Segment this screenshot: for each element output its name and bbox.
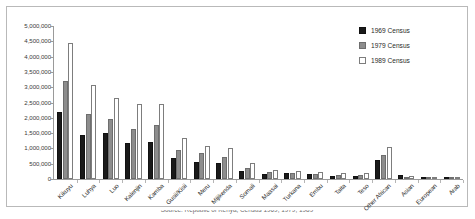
x-tick-mark <box>418 180 419 183</box>
bar <box>194 162 199 179</box>
bar <box>137 104 142 179</box>
bar-group <box>284 26 300 179</box>
bar <box>63 81 68 179</box>
bar-group <box>103 26 119 179</box>
x-axis-category-label: Mijikenda <box>210 182 233 205</box>
y-axis-labels: 5,000,0004,500,0004,000,0003,500,0003,00… <box>7 7 51 219</box>
bar <box>262 174 267 179</box>
y-tick-label: 2,500,000 <box>24 99 51 106</box>
bar-group <box>57 26 73 179</box>
bar <box>86 114 91 179</box>
bar <box>387 147 392 179</box>
bar <box>267 172 272 179</box>
y-tick-label: 1,000,000 <box>24 144 51 151</box>
bar <box>398 175 403 179</box>
y-tick-label: 2,000,000 <box>24 114 51 121</box>
bar <box>182 138 187 179</box>
x-axis-category-label: European <box>414 182 438 206</box>
x-tick-mark <box>236 180 237 183</box>
bar <box>375 160 380 179</box>
x-axis-category-label: Asian <box>399 182 415 198</box>
legend-label: 1969 Census <box>371 27 410 34</box>
legend-item: 1969 Census <box>359 23 410 38</box>
y-tick-label: 500,000 <box>29 160 51 167</box>
y-tick-label: 3,500,000 <box>24 68 51 75</box>
bar <box>313 174 318 179</box>
x-tick-mark <box>395 180 396 183</box>
y-tick-label: 4,000,000 <box>24 53 51 60</box>
legend-item: 1979 Census <box>359 38 410 53</box>
bar <box>353 176 358 179</box>
bar-group <box>148 26 164 179</box>
x-axis-category-label: Luhya <box>80 182 97 199</box>
legend-label: 1979 Census <box>371 42 410 49</box>
x-axis-category-label: Teso <box>356 182 370 196</box>
bar <box>284 173 289 179</box>
x-tick-mark <box>281 180 282 183</box>
bar <box>250 163 255 179</box>
bar-group <box>80 26 96 179</box>
bar <box>103 133 108 180</box>
legend: 1969 Census1979 Census1989 Census <box>359 23 410 68</box>
bar <box>148 142 153 179</box>
x-axis-category-label: Kamba <box>147 182 166 201</box>
caption-clip: Source: Republic of Kenya, Census 1969, … <box>6 210 468 219</box>
bar <box>404 177 409 179</box>
bar <box>125 143 130 179</box>
bar <box>273 170 278 179</box>
x-axis-category-label: Meru <box>196 182 211 197</box>
x-axis-category-label: Maasai <box>260 182 279 201</box>
x-axis-category-label: Turkana <box>281 182 302 203</box>
bar <box>222 157 227 179</box>
bar-group <box>330 26 346 179</box>
x-tick-mark <box>259 180 260 183</box>
legend-swatch-icon <box>359 42 366 49</box>
bar <box>80 135 85 179</box>
bar-group <box>194 26 210 179</box>
x-tick-mark <box>145 180 146 183</box>
chart-caption: Source: Republic of Kenya, Census 1969, … <box>6 210 468 213</box>
bar <box>330 176 335 179</box>
bar <box>336 175 341 179</box>
x-tick-mark <box>349 180 350 183</box>
bar-group <box>421 26 437 179</box>
bar <box>228 148 233 179</box>
bar-group <box>262 26 278 179</box>
x-axis-category-label: Gusii/Kisii <box>164 182 188 206</box>
bar <box>409 176 414 179</box>
bar <box>159 104 164 179</box>
bar <box>307 174 312 180</box>
x-tick-mark <box>327 180 328 183</box>
bar <box>57 112 62 179</box>
bar <box>245 168 250 179</box>
legend-swatch-icon <box>359 57 366 64</box>
bar <box>216 163 221 179</box>
x-axis-category-label: Luo <box>108 182 120 194</box>
bar <box>199 153 204 179</box>
bar <box>68 43 73 179</box>
bar-group <box>216 26 232 179</box>
x-tick-mark <box>190 180 191 183</box>
legend-item: 1989 Census <box>359 53 410 68</box>
bar <box>131 129 136 179</box>
bar <box>444 177 449 179</box>
bar <box>296 171 301 179</box>
bar <box>91 85 96 179</box>
x-tick-mark <box>77 180 78 183</box>
bar <box>154 125 159 179</box>
bar <box>341 173 346 179</box>
bar <box>114 98 119 179</box>
x-tick-mark <box>168 180 169 183</box>
bar <box>421 177 426 179</box>
bar <box>358 175 363 179</box>
chart-frame: 5,000,0004,500,0004,000,0003,500,0003,00… <box>6 6 468 207</box>
x-axis-category-label: Somali <box>238 182 256 200</box>
x-tick-mark <box>372 180 373 183</box>
bar <box>455 177 460 179</box>
bar-group <box>171 26 187 179</box>
x-axis-category-label: Kalenjin <box>122 182 142 202</box>
y-tick-label: 3,000,000 <box>24 83 51 90</box>
x-axis-category-label: Kikuyu <box>56 182 74 200</box>
bar-group <box>444 26 460 179</box>
x-tick-mark <box>440 180 441 183</box>
